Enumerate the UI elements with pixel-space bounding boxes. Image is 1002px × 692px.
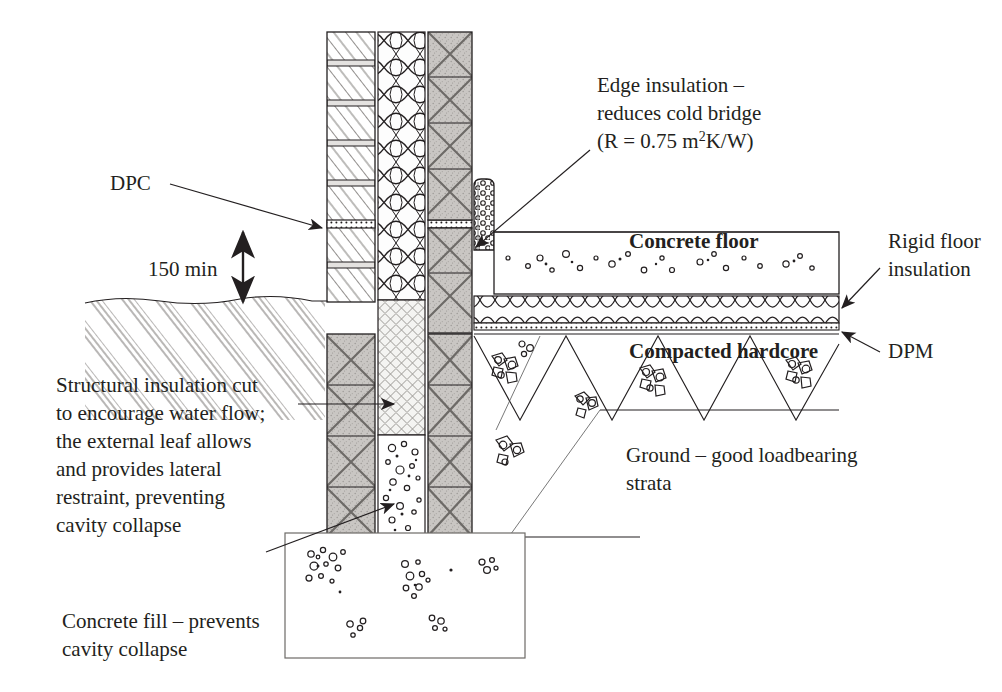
label-edge-insulation: Edge insulation – reduces cold bridge (R… [597,73,761,153]
label-compacted-hardcore: Compacted hardcore [629,339,818,363]
label-structural-insulation-line2: to encourage water flow; [56,401,265,425]
label-dpc: DPC [110,171,151,195]
label-structural-insulation-line5: restraint, preventing [56,485,226,509]
label-concrete-fill-line1: Concrete fill – prevents [62,609,260,633]
label-ground-line2: strata [626,471,672,495]
label-structural-insulation-line3: the external leaf allows [56,429,251,453]
inner-leaf-below-ground [428,334,472,537]
edge-insulation-r-value-sup: 2 [699,129,706,144]
label-edge-insulation-line2: reduces cold bridge [597,101,761,125]
inner-block-leaf-mid [428,228,472,333]
label-concrete-fill-line2: cavity collapse [62,637,187,661]
label-rigid-floor-insulation-line2: insulation [888,257,971,281]
construction-detail-drawing: DPC 150 min Edge insulation – reduces co… [0,0,1002,692]
concrete-fill-detail-box [285,533,525,658]
label-structural-insulation-line4: and provides lateral [56,457,222,481]
edge-insulation-r-value-prefix: (R = 0.75 m [597,129,699,153]
label-concrete-floor: Concrete floor [629,229,759,253]
label-dimension-150: 150 min [148,257,218,281]
dpc-band-inner [428,220,472,228]
rigid-floor-insulation-layer [474,296,839,323]
edge-insulation-strip [474,179,494,250]
inner-block-leaf-upper [428,32,472,220]
dpc-band [327,220,375,228]
detail-svg: DPC 150 min Edge insulation – reduces co… [0,0,1002,692]
edge-insulation-r-value-suffix: K/W) [706,129,754,153]
label-edge-insulation-line1: Edge insulation – [597,73,744,97]
concrete-cavity-fill [378,435,425,537]
outer-brick-leaf [327,32,375,302]
outer-leaf-below-ground [327,334,375,537]
label-rigid-floor-insulation-line1: Rigid floor [888,229,981,253]
cavity-insulation-quilt [378,32,425,300]
label-dpm: DPM [888,339,934,363]
label-structural-insulation-line1: Structural insulation cut [56,373,258,397]
label-structural-insulation-line6: cavity collapse [56,513,181,537]
label-edge-insulation-line3: (R = 0.75 m2K/W) [597,129,754,154]
label-ground-line1: Ground – good loadbearing [626,443,858,467]
structural-insulation-cut [378,300,425,435]
